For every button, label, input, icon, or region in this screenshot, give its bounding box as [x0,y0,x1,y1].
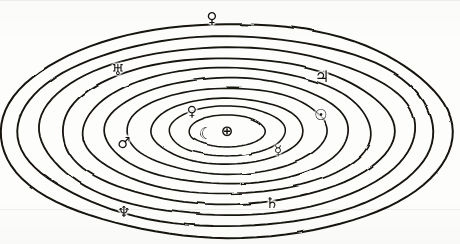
earth-symbol-icon: ⊕ [221,124,234,139]
mars-symbol-icon: ♂ [117,136,130,151]
uranus-symbol-icon: ♅ [111,63,124,78]
saturn-symbol-icon: ♄ [265,196,278,211]
orbit-diagram: ⊕ ☾☿♀☉♂♃♄♅♆♀ [0,0,460,244]
venus-symbol-icon: ♀ [187,104,197,118]
moon-symbol-icon: ☾ [199,126,213,142]
mercury-symbol-icon: ☿ [274,144,282,157]
pluto-symbol-icon: ♀ [207,11,218,26]
sun-symbol-icon: ☉ [314,108,327,123]
jupiter-symbol-icon: ♃ [315,69,329,85]
neptune-symbol-icon: ♆ [117,205,130,220]
